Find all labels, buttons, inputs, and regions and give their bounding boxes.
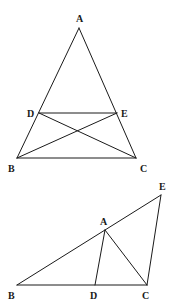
fig2-label-A: A	[100, 216, 108, 227]
fig1-label-B: B	[8, 163, 15, 174]
fig2-label-E: E	[159, 181, 166, 192]
fig2-segment-AC	[105, 230, 147, 285]
figure-2: E A B D C	[8, 181, 166, 301]
fig1-label-D: D	[27, 108, 34, 119]
fig1-segment-DC	[39, 113, 136, 158]
fig2-label-D: D	[90, 290, 97, 301]
fig1-label-C: C	[140, 163, 147, 174]
fig2-segment-BE	[17, 195, 161, 285]
fig1-segment-AB	[17, 28, 79, 158]
figure-1: A D E B C	[8, 13, 147, 174]
fig1-segment-AC	[79, 28, 136, 158]
fig1-label-E: E	[121, 108, 128, 119]
diagram-canvas: A D E B C E A B D C	[0, 0, 176, 305]
fig1-label-A: A	[76, 13, 84, 24]
fig1-segment-EB	[17, 113, 117, 158]
fig2-label-C: C	[142, 290, 149, 301]
fig2-label-B: B	[8, 290, 15, 301]
fig2-segment-EC	[147, 195, 161, 285]
fig2-segment-AD	[95, 230, 105, 285]
